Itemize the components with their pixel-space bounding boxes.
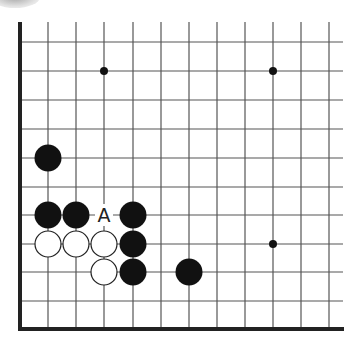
point-labels: A	[95, 204, 113, 226]
star-point-icon	[269, 240, 277, 248]
board-edges	[18, 22, 344, 331]
black-stone	[35, 202, 62, 229]
black-stone	[63, 202, 90, 229]
black-stone	[176, 259, 203, 286]
black-stone	[120, 231, 147, 258]
white-stone	[91, 259, 117, 285]
black-stone	[35, 145, 62, 172]
white-stone	[91, 231, 117, 257]
star-point-icon	[269, 67, 277, 75]
point-label-a: A	[98, 204, 111, 226]
black-stone	[120, 259, 147, 286]
white-stone	[63, 231, 89, 257]
white-stone	[35, 231, 61, 257]
star-point-icon	[100, 67, 108, 75]
go-board: A	[0, 0, 362, 348]
black-stone	[120, 202, 147, 229]
